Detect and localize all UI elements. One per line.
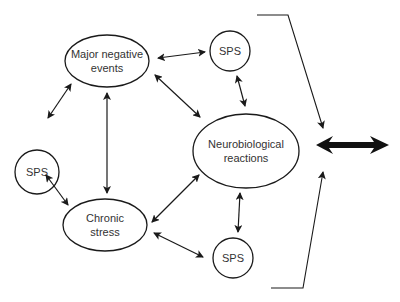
edge-major-events-sps-left (48, 84, 71, 118)
edge-major-events-sps-top (158, 52, 205, 58)
bracket-top (257, 15, 323, 128)
edge-chronic-stress-sps-bottom (154, 233, 203, 257)
node-label: SPS (222, 252, 244, 264)
node-label: events (91, 62, 124, 74)
node-sps-top: SPS (210, 31, 250, 71)
edge-sps-top-neurobiological (237, 76, 245, 106)
edge-chronic-stress-neurobiological (152, 175, 199, 222)
node-neurobiological-reactions: Neurobiological reactions (193, 114, 299, 188)
node-label: Chronic (86, 212, 124, 224)
bracket-bottom (271, 172, 323, 288)
node-label: stress (90, 226, 120, 238)
node-sps-bottom: SPS (213, 238, 253, 278)
bold-double-arrow-icon (316, 136, 389, 154)
edge-neurobiological-sps-bottom (238, 193, 240, 232)
node-label: Major negative (71, 48, 143, 60)
stress-sps-diagram: Major negative events SPS SPS Neurobiolo… (0, 0, 400, 302)
node-major-negative-events: Major negative events (65, 35, 149, 87)
node-label: SPS (219, 45, 241, 57)
node-label: Neurobiological (208, 138, 284, 150)
node-label: reactions (224, 152, 269, 164)
node-label: SPS (26, 166, 48, 178)
node-sps-left: SPS (15, 150, 59, 194)
edge-major-events-neurobiological (155, 75, 200, 117)
node-chronic-stress: Chronic stress (63, 199, 147, 251)
